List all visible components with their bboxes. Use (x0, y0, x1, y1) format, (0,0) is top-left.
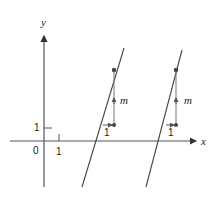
x-axis-label: x (200, 135, 206, 147)
x-tick-label: 1 (56, 146, 62, 157)
y-axis-label: y (40, 16, 46, 28)
point (112, 68, 116, 72)
line-2: 1 m (146, 50, 192, 187)
rise-label: m (184, 94, 192, 106)
y-tick-label: 1 (34, 122, 40, 133)
run-label: 1 (104, 127, 110, 138)
run-label: 1 (168, 127, 174, 138)
slope-diagram: y x 0 1 1 1 m 1 m (0, 0, 219, 199)
origin-label: 0 (33, 145, 39, 156)
diagram-svg: y x 0 1 1 1 m 1 m (0, 0, 219, 199)
point (174, 123, 178, 127)
point (174, 68, 178, 72)
line-1: 1 m (82, 48, 128, 187)
rise-label: m (120, 94, 128, 106)
point (112, 123, 116, 127)
